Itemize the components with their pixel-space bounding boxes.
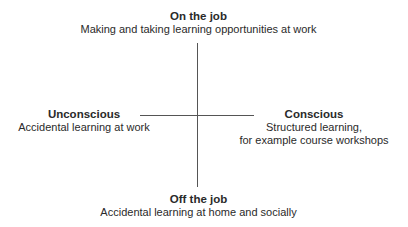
right-desc-2: for example course workshops bbox=[234, 134, 394, 147]
right-desc-1: Structured learning, bbox=[234, 121, 394, 134]
right-label: Conscious Structured learning, for examp… bbox=[234, 108, 394, 147]
right-title: Conscious bbox=[234, 108, 394, 121]
bottom-label: Off the job Accidental learning at home … bbox=[60, 193, 337, 219]
top-label: On the job Making and taking learning op… bbox=[60, 10, 337, 36]
top-desc: Making and taking learning opportunities… bbox=[80, 23, 316, 35]
top-title: On the job bbox=[60, 10, 337, 23]
left-label: Unconscious Accidental learning at work bbox=[14, 108, 154, 134]
left-desc: Accidental learning at work bbox=[18, 121, 149, 133]
left-title: Unconscious bbox=[14, 108, 154, 121]
bottom-title: Off the job bbox=[60, 193, 337, 206]
bottom-desc: Accidental learning at home and socially bbox=[100, 206, 296, 218]
